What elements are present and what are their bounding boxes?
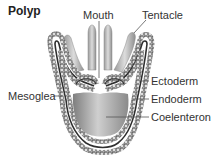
diagram-title: Polyp <box>8 4 41 18</box>
polyp-diagram: Polyp Mouth Tentacle Ectoderm Endoderm C… <box>0 0 211 166</box>
label-endoderm: Endoderm <box>151 93 202 105</box>
label-coelenteron: Coelenteron <box>151 111 211 123</box>
label-mesoglea: Mesoglea <box>8 90 56 102</box>
label-tentacle: Tentacle <box>142 9 183 21</box>
tentacle-leader <box>134 20 146 33</box>
label-mouth: Mouth <box>83 9 114 21</box>
label-ectoderm: Ectoderm <box>151 75 198 87</box>
